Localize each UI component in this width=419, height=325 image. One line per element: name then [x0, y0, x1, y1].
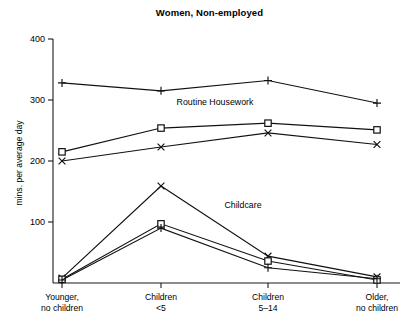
y-axis-tick-label: 100 — [30, 217, 45, 227]
x-axis-category-label: Children — [145, 292, 177, 302]
line-chart: 100200300400 mins. per average day Routi… — [0, 0, 419, 325]
y-axis-tick-label: 400 — [30, 34, 45, 44]
chart-series-layer — [58, 76, 381, 283]
series-line-1-0 — [62, 186, 377, 278]
x-axis-category-label: Older, — [366, 292, 389, 302]
data-point-marker-plus — [264, 76, 272, 84]
chart-page: Women, Non-employed 100200300400 mins. p… — [0, 0, 419, 325]
x-axis-category-label: Younger, — [45, 292, 79, 302]
series-line-0-2 — [62, 133, 377, 161]
y-axis-tick-label: 200 — [30, 156, 45, 166]
y-axis-title: mins. per average day — [14, 120, 24, 206]
y-axis-tick-label: 300 — [30, 95, 45, 105]
data-point-marker-square — [265, 120, 271, 126]
chart-axes: 100200300400 — [30, 34, 400, 288]
data-point-marker-square — [158, 125, 164, 131]
series-group-childcare — [58, 183, 381, 284]
chart-annotations: Routine HouseworkChildcare — [177, 97, 262, 210]
x-axis-category-label: Children — [252, 292, 284, 302]
data-point-marker-plus — [264, 264, 272, 272]
x-axis-category-labels: Younger,no childrenChildren<5Children5–1… — [41, 292, 398, 313]
x-axis-category-label: no children — [356, 303, 398, 313]
data-point-marker-square — [374, 127, 380, 133]
series-annotation-label: Routine Housework — [177, 97, 254, 107]
data-point-marker-plus — [58, 79, 66, 87]
series-group-routine-housework — [58, 76, 381, 164]
y-axis-title-text: mins. per average day — [14, 120, 24, 206]
x-axis-category-label: <5 — [156, 303, 166, 313]
data-point-marker-square — [265, 258, 271, 264]
series-line-0-1 — [62, 123, 377, 152]
x-axis-category-label: no children — [41, 303, 83, 313]
x-axis-category-label: 5–14 — [258, 303, 277, 313]
data-point-marker-cross — [158, 183, 165, 190]
data-point-marker-plus — [157, 87, 165, 95]
data-point-marker-square — [59, 149, 65, 155]
series-annotation-label: Childcare — [224, 200, 261, 210]
data-point-marker-plus — [373, 99, 381, 107]
series-line-1-1 — [62, 224, 377, 280]
